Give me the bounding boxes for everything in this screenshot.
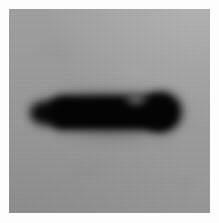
protein-band-undershadow [47,129,179,151]
blot-membrane [9,9,210,213]
protein-band-edge-notch [121,89,151,105]
western-blot-figure [0,0,219,223]
protein-band-core [55,101,173,125]
